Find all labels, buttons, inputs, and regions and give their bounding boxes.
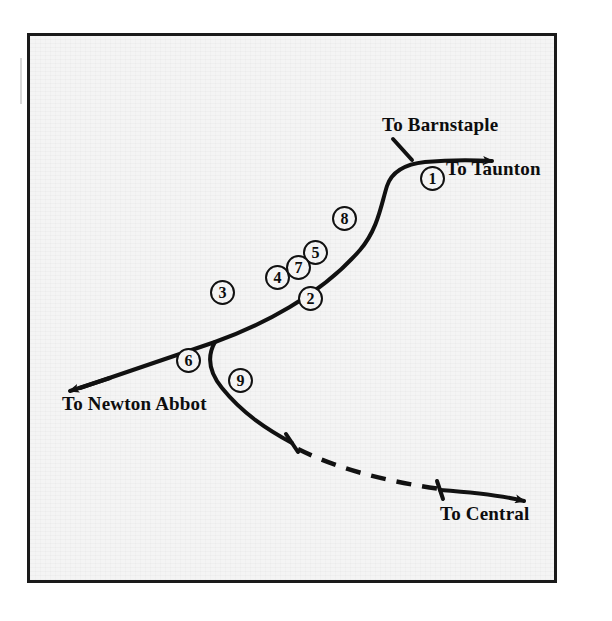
site-marker-2[interactable]: 2 — [298, 286, 323, 311]
site-marker-8[interactable]: 8 — [332, 206, 357, 231]
label-to-taunton: To Taunton — [446, 158, 541, 180]
track-central-branch-upper — [210, 342, 298, 452]
track-barnstaple-branch — [393, 139, 412, 160]
tick-mark-west — [286, 434, 298, 452]
label-to-central: To Central — [440, 503, 529, 525]
site-marker-3[interactable]: 3 — [210, 280, 235, 305]
track-central-branch-lower — [440, 490, 524, 501]
label-to-newton-abbot: To Newton Abbot — [62, 393, 207, 415]
track-central-branch-dashed — [298, 449, 443, 499]
site-marker-9[interactable]: 9 — [228, 368, 253, 393]
label-to-barnstaple: To Barnstaple — [382, 114, 498, 136]
site-marker-6[interactable]: 6 — [176, 348, 201, 373]
site-marker-7[interactable]: 7 — [286, 255, 311, 280]
figure-page: To Barnstaple To Taunton To Newton Abbot… — [0, 0, 612, 621]
track-newton-abbot-arrow — [70, 378, 110, 391]
site-marker-1[interactable]: 1 — [420, 166, 445, 191]
